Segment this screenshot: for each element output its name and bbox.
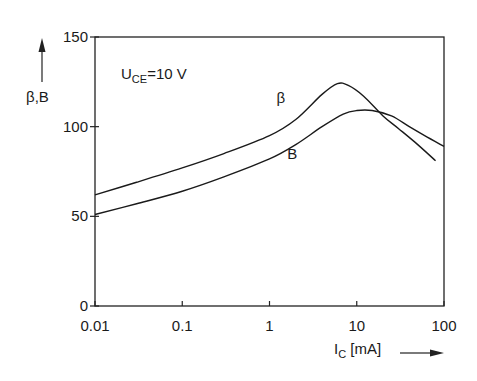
- series-line-b: [95, 110, 444, 215]
- x-axis-label: IC [mA]: [334, 340, 381, 360]
- annotation: UCE=10 V: [121, 65, 187, 85]
- annotation-main: U: [121, 65, 132, 82]
- chart: 0.010.1110100050100150 βB β,B UCE=10 V I…: [0, 0, 477, 381]
- x-tick-label: 0.01: [80, 317, 109, 334]
- x-tick-label: 0.1: [172, 317, 193, 334]
- y-axis-arrowhead: [39, 38, 46, 52]
- x-tick-label: 10: [348, 317, 365, 334]
- annotation-sub: CE: [132, 73, 147, 85]
- y-tick-label: 100: [63, 118, 88, 135]
- series-label: β: [276, 89, 285, 106]
- y-tick-label: 50: [71, 207, 88, 224]
- annotation-rest: =10 V: [147, 65, 187, 82]
- y-axis-label: β,B: [26, 88, 49, 105]
- x-label-sub: C: [338, 348, 346, 360]
- x-label-rest: [mA]: [346, 340, 381, 357]
- y-tick-label: 0: [80, 297, 88, 314]
- x-tick-label: 1: [265, 317, 273, 334]
- x-axis-arrowhead: [430, 350, 444, 357]
- series-label: B: [287, 145, 297, 162]
- x-tick-label: 100: [431, 317, 456, 334]
- series-line-beta: [95, 83, 436, 195]
- y-tick-label: 150: [63, 28, 88, 45]
